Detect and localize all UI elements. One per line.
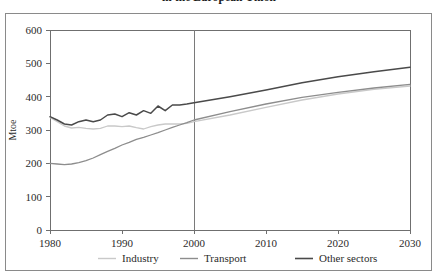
chart-frame-border [5, 13, 432, 271]
chart-title-band: in the European Union [0, 0, 438, 12]
chart-title: in the European Union [0, 0, 438, 3]
chart-figure: in the European Union 010020030040050060… [0, 0, 438, 280]
